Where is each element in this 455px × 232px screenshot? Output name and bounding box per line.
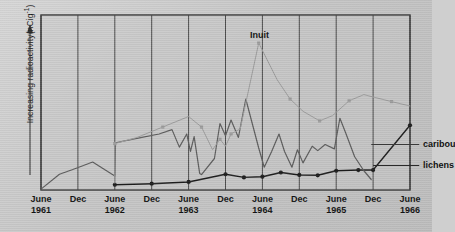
data-point-inuit [257, 41, 260, 44]
inuit-label: Inuit [250, 30, 269, 40]
data-point-lichens [371, 168, 375, 172]
data-point-inuit [161, 125, 164, 128]
x-tick-label: June1961 [30, 194, 51, 215]
data-point-lichens [150, 182, 154, 186]
x-tick-month: Dec [365, 194, 382, 204]
data-point-inuit [348, 99, 351, 102]
data-point-lichens [334, 169, 338, 173]
x-tick-label: June1962 [104, 194, 125, 215]
data-point-lichens [242, 175, 246, 179]
data-point-inuit [200, 125, 203, 128]
x-tick-year: 1964 [252, 205, 273, 216]
x-tick-year: 1966 [399, 205, 420, 216]
data-point-lichens [316, 173, 320, 177]
x-tick-label: June1965 [326, 194, 347, 215]
x-tick-year: 1961 [30, 205, 51, 216]
caribou-label: caribou [423, 139, 455, 149]
lichens-label: lichens [423, 160, 454, 170]
x-tick-month: Dec [143, 194, 160, 204]
x-tick-year: 1963 [178, 205, 199, 216]
data-point-lichens [187, 180, 191, 184]
x-tick-month: June [399, 194, 420, 204]
x-tick-label: Dec [217, 194, 234, 205]
x-tick-month: June [252, 194, 273, 204]
x-tick-label: Dec [70, 194, 87, 205]
y-axis-arrowhead [27, 24, 33, 33]
data-point-inuit [318, 119, 321, 122]
x-tick-label: June1966 [399, 194, 420, 215]
x-tick-month: Dec [217, 194, 234, 204]
data-point-lichens [223, 172, 227, 176]
data-point-inuit [218, 138, 221, 141]
x-tick-month: June [178, 194, 199, 204]
data-point-lichens [297, 173, 301, 177]
x-tick-label: Dec [291, 194, 308, 205]
x-tick-month: June [30, 194, 51, 204]
data-point-inuit [288, 97, 291, 100]
data-point-lichens [279, 170, 283, 174]
x-tick-month: June [104, 194, 125, 204]
data-point-lichens [408, 123, 412, 127]
x-tick-label: June1964 [252, 194, 273, 215]
x-tick-label: June1963 [178, 194, 199, 215]
data-point-inuit [113, 142, 116, 145]
x-tick-year: 1965 [326, 205, 347, 216]
x-tick-month: Dec [291, 194, 308, 204]
data-point-lichens [260, 175, 264, 179]
x-tick-month: Dec [70, 194, 87, 204]
data-point-inuit [229, 132, 232, 135]
x-tick-month: June [326, 194, 347, 204]
data-point-inuit [390, 100, 393, 103]
x-tick-year: 1962 [104, 205, 125, 216]
x-tick-label: Dec [143, 194, 160, 205]
data-point-lichens [356, 168, 360, 172]
x-tick-label: Dec [365, 194, 382, 205]
